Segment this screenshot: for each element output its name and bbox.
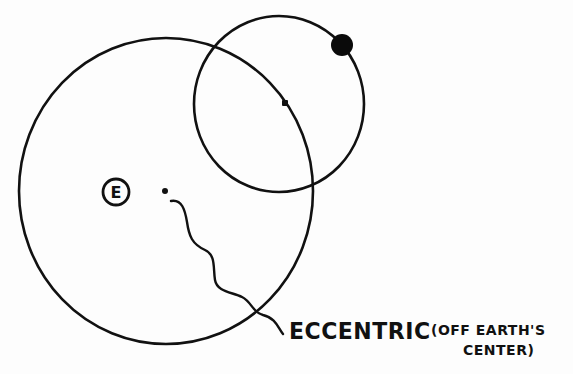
eccentric-note-line2: CENTER) [463, 342, 534, 358]
earth-label: E [111, 183, 122, 202]
diagram-canvas: E ECCENTRIC (OFF EARTH'S CENTER) [0, 0, 573, 374]
epicycle-center-marker [282, 100, 288, 106]
planet-dot [331, 34, 353, 56]
eccentric-center-dot [162, 188, 168, 194]
leader-line [171, 201, 283, 334]
earth-icon: E [103, 179, 129, 205]
eccentric-note-line1: (OFF EARTH'S [431, 322, 546, 338]
diagram-svg: E [0, 0, 573, 374]
eccentric-label: ECCENTRIC [289, 318, 431, 344]
